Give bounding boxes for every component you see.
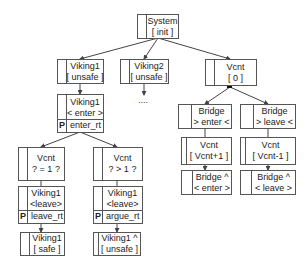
p-label: P [58,120,67,132]
node-action: < leave > [255,183,292,194]
node-title: Vcnt [37,153,55,164]
node-title: System [147,16,177,27]
node-bridge-hat-leave: Bridge ^< leave > [240,170,296,195]
node-title: Viking1 [108,188,137,199]
node-vcnt-minus: Vcnt[ Vcnt-1 ] [240,137,296,165]
node-title: Viking1 [32,233,61,244]
node-action: < enter > [67,108,103,119]
node-state: [ unsafe ] [101,244,138,255]
node-title: Bridge [198,106,224,117]
node-action: < enter > [194,183,230,194]
node-state: [ Vcnt+1 ] [190,151,228,162]
node-viking1-leave-left: Viking1<leave> Pleave_rt [18,186,65,224]
node-state: [ 0 ] [228,73,243,84]
node-system: System[ init ] [137,14,179,39]
node-state: [ safe ] [33,244,60,255]
node-title: Vcnt [261,140,279,151]
node-title: Viking1 [70,97,99,108]
node-title: Vcnt [226,62,244,73]
node-viking2-unsafe: Viking2[ unsafe ] [120,59,169,84]
node-bridge-leave: Bridge> leave < [240,104,296,129]
ellipsis: .... [138,95,148,105]
node-state: [ init ] [152,27,174,38]
node-title: Viking1 [70,61,99,72]
node-title: Viking2 [134,61,163,72]
node-title: Bridge ^ [196,172,229,183]
node-state: [ unsafe ] [66,72,103,83]
node-title: Viking1 [31,188,60,199]
node-vcnt-plus: Vcnt[ Vcnt+1 ] [181,137,232,165]
node-guard: ? = 1 ? [32,164,60,175]
node-event: > enter < [193,117,229,128]
node-vcnt-gt1: Vcnt? > 1 ? [93,147,143,181]
node-title: Bridge ^ [257,172,290,183]
node-bridge-hat-enter: Bridge ^< enter > [181,170,232,195]
node-title: Bridge [261,106,287,117]
node-guard: ? > 1 ? [109,164,137,175]
node-title: Vcnt [113,153,131,164]
p-label: P [94,211,103,223]
node-title: Viking1 ^ [101,233,137,244]
p-text: argue_rt [103,211,142,223]
p-text: enter_rt [67,120,103,132]
node-action: <leave> [30,199,62,210]
node-vcnt-0: Vcnt[ 0 ] [205,59,257,86]
node-viking1-unsafe: Viking1[ unsafe ] [57,59,104,84]
node-viking1-safe: Viking1[ safe ] [20,232,65,256]
node-viking1-enter: Viking1< enter > Penter_rt [57,94,104,133]
node-event: > leave < [256,117,293,128]
node-action: <leave> [106,199,138,210]
node-title: Vcnt [200,140,218,151]
node-vcnt-eq1: Vcnt? = 1 ? [18,147,65,181]
p-label: P [19,211,28,223]
node-viking1-hat-unsafe: Viking1 ^[ unsafe ] [93,232,141,256]
node-bridge-enter: Bridge> enter < [178,104,232,129]
node-state: [ Vcnt-1 ] [252,151,288,162]
node-viking1-leave-right: Viking1<leave> Pargue_rt [93,186,143,224]
p-text: leave_rt [28,211,64,223]
node-state: [ unsafe ] [130,72,167,83]
